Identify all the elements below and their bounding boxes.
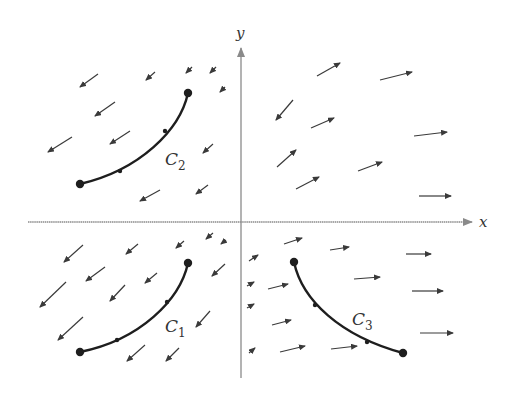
vector-arrow [140, 190, 160, 201]
vector-arrow [95, 102, 115, 116]
vector-arrow [414, 132, 447, 136]
vector-arrow [206, 233, 213, 239]
vector-arrow [380, 72, 412, 80]
vector-arrow [280, 346, 305, 352]
vector-arrow [247, 304, 254, 308]
vector-arrow [110, 285, 125, 301]
vector-arrow [330, 247, 349, 250]
vector-arrow [127, 345, 145, 361]
direction-arrow-icon [163, 129, 167, 133]
vector-arrow [296, 177, 319, 189]
vector-arrow [212, 264, 225, 276]
vector-arrow [203, 144, 213, 153]
vector-arrow [220, 87, 225, 92]
curve-label: C3 [352, 309, 373, 333]
vector-arrow [64, 245, 83, 262]
vector-arrow [176, 241, 184, 248]
vector-arrow [247, 282, 254, 286]
vector-arrow [358, 162, 382, 171]
curve-c2: C2 [76, 89, 192, 188]
curve-start-point [184, 259, 192, 267]
direction-arrow-icon [115, 338, 119, 342]
y-axis-label: y [235, 24, 245, 42]
curve-start-point [184, 89, 192, 97]
vector-arrow [268, 284, 288, 289]
curve-path [294, 262, 403, 353]
curve-end-point [76, 180, 84, 188]
vector-field-arrows [40, 63, 453, 361]
vector-arrow [284, 238, 302, 244]
vector-arrow [80, 74, 98, 87]
vector-arrow [249, 348, 255, 353]
curve-c1: C1 [76, 259, 192, 356]
x-axis-label: x [479, 213, 488, 231]
vector-arrow [311, 118, 334, 128]
vector-arrow [221, 240, 226, 244]
curve-label: C2 [165, 149, 186, 173]
vector-arrow [210, 67, 216, 73]
vector-arrow [48, 137, 72, 152]
vector-field-diagram: x y C2C1C3 [0, 0, 518, 399]
curve-path [80, 93, 188, 184]
vector-arrow [331, 346, 357, 349]
vector-arrow [58, 317, 83, 340]
direction-arrow-icon [313, 303, 317, 307]
direction-arrow-icon [165, 300, 169, 304]
vector-arrow [196, 185, 208, 194]
vector-arrow [354, 277, 380, 279]
direction-arrow-icon [365, 340, 369, 344]
vector-arrow [86, 267, 105, 281]
axes: x y [28, 24, 488, 378]
vector-arrow [126, 244, 138, 254]
vector-arrow [276, 100, 293, 120]
curve-label: C1 [165, 316, 186, 340]
vector-arrow [145, 273, 157, 283]
curve-path [80, 263, 188, 352]
curve-end-point [399, 349, 407, 357]
vector-arrow [249, 255, 258, 261]
curve-start-point [290, 258, 298, 266]
direction-arrow-icon [118, 169, 122, 173]
vector-arrow [277, 150, 296, 167]
vector-arrow [272, 320, 291, 325]
curve-c3: C3 [290, 258, 407, 357]
vector-arrow [166, 348, 179, 361]
curve-end-point [76, 348, 84, 356]
vector-arrow [186, 67, 192, 73]
vector-arrow [146, 72, 155, 80]
vector-arrow [317, 63, 340, 76]
vector-arrow [196, 311, 210, 327]
vector-arrow [40, 282, 66, 307]
vector-arrow [110, 131, 130, 144]
